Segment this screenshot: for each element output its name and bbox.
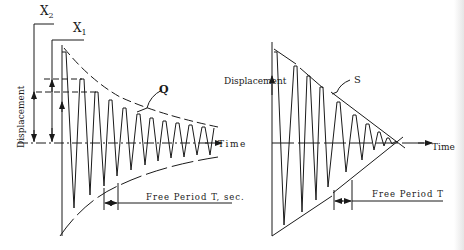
- x2-bracket: [34, 24, 54, 142]
- right-ylabel: Displacement: [224, 76, 287, 86]
- s-envelope-label: S: [354, 74, 361, 85]
- s-envelope-upper: [331, 92, 405, 148]
- x2-label: X2: [40, 4, 54, 20]
- x1-label: X1: [73, 21, 87, 37]
- right-panel: [272, 42, 443, 236]
- left-labels: X2 X1 Displacement Time Q Free Period T,…: [16, 4, 247, 202]
- left-period-label: Free Period T, sec.: [146, 192, 245, 202]
- q-envelope-label: Q: [159, 83, 169, 96]
- left-xlabel: Time: [218, 139, 247, 149]
- right-period-label: Free Period T: [372, 189, 444, 199]
- damped-wave-linear: [274, 52, 396, 225]
- scan-edge-shadow: [454, 0, 464, 250]
- q-envelope-upper: [64, 48, 218, 127]
- right-xlabel: Time: [432, 142, 455, 152]
- right-labels: Displacement Time S Free Period T: [224, 74, 455, 199]
- left-ylabel: Displacement: [16, 85, 26, 148]
- figure-svg: X2 X1 Displacement Time Q Free Period T,…: [0, 0, 464, 250]
- left-panel: [18, 24, 232, 236]
- damped-wave-exponential: [62, 52, 214, 208]
- vibration-decay-figure: X2 X1 Displacement Time Q Free Period T,…: [0, 0, 464, 250]
